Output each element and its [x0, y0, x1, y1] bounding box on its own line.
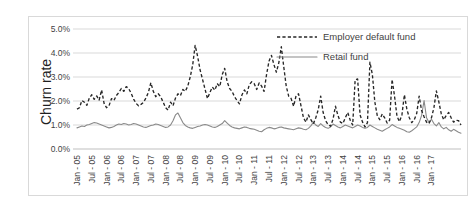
x-axis-tick-label: Jan - 14	[338, 155, 348, 186]
x-axis-tick-labels: Jan - 05Jul - 05Jan - 06Jul - 06Jan - 07…	[72, 155, 436, 186]
y-axis-title-text: Churn rate	[38, 59, 54, 125]
x-axis-tick-label: Jul - 15	[382, 155, 392, 183]
x-axis-tick-label: Jan - 17	[426, 155, 436, 186]
legend-label-employer-default-fund: Employer default fund	[323, 31, 415, 42]
y-axis-tick-label: 5.0%	[51, 24, 71, 34]
x-axis-tick-label: Jan - 16	[397, 155, 407, 186]
x-axis-tick-label: Jul - 05	[87, 155, 97, 183]
x-axis-tick-label: Jan - 05	[72, 155, 82, 186]
x-axis-tick-label: Jan - 15	[367, 155, 377, 186]
x-axis-tick-label: Jul - 07	[146, 155, 156, 183]
x-axis-tick-label: Jul - 10	[234, 155, 244, 183]
x-axis-tick-label: Jan - 12	[279, 155, 289, 186]
x-axis-tick-label: Jul - 16	[412, 155, 422, 183]
series-line-retail-fund	[77, 101, 461, 134]
chart-container: 0.0%1.0%2.0%3.0%4.0%5.0% Jan - 05Jul - 0…	[28, 16, 468, 196]
x-axis-tick-label: Jul - 06	[116, 155, 126, 183]
x-axis-tick-label: Jul - 09	[205, 155, 215, 183]
x-axis-tick-label: Jul - 11	[264, 155, 274, 183]
churn-rate-line-chart: 0.0%1.0%2.0%3.0%4.0%5.0% Jan - 05Jul - 0…	[29, 17, 467, 195]
x-axis-tick-label: Jan - 11	[249, 155, 259, 185]
y-axis-title: Churn rate	[38, 59, 54, 125]
series-line-employer-default-fund	[77, 45, 461, 127]
x-axis-tick-label: Jul - 12	[294, 155, 304, 183]
y-axis-tick-label: 0.0%	[51, 144, 71, 154]
x-axis-tick-label: Jan - 07	[131, 155, 141, 186]
y-axis-tick-label: 4.0%	[51, 48, 71, 58]
x-axis-tick-label: Jul - 14	[353, 155, 363, 183]
x-axis-tick-label: Jul - 13	[323, 155, 333, 183]
legend: Employer default fund Retail fund	[277, 31, 415, 62]
x-axis-tick-label: Jan - 10	[220, 155, 230, 186]
gridlines	[73, 29, 461, 149]
x-axis-tick-label: Jan - 08	[161, 155, 171, 186]
x-axis-tick-label: Jan - 06	[102, 155, 112, 186]
x-axis-tick-label: Jan - 13	[308, 155, 318, 186]
plot-series	[77, 45, 461, 133]
x-axis-tick-label: Jul - 08	[175, 155, 185, 183]
legend-label-retail-fund: Retail fund	[323, 51, 368, 62]
x-axis-tick-label: Jan - 09	[190, 155, 200, 186]
